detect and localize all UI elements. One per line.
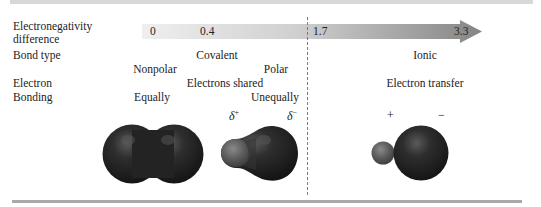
molecule-illustrations bbox=[0, 0, 541, 207]
bottom-rule bbox=[12, 200, 522, 203]
polar-molecule-icon bbox=[221, 126, 298, 181]
nonpolar-molecule-icon bbox=[103, 125, 204, 184]
ionic-molecule-icon bbox=[372, 126, 449, 181]
